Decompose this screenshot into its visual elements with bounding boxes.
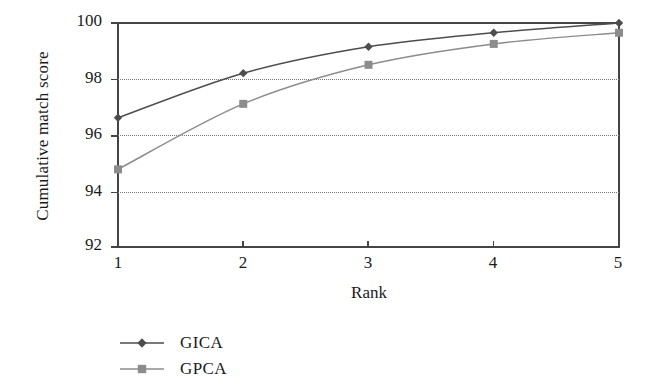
x-tick-label-4: 4 (489, 253, 498, 273)
y-tick-label-98: 98 (85, 68, 102, 88)
series-layer (117, 22, 620, 248)
y-tick-label-94: 94 (85, 181, 102, 201)
series-line-gpca (118, 33, 619, 170)
data-point-gpca-rank-2 (239, 100, 247, 108)
data-point-gica-rank-5 (615, 19, 623, 27)
data-point-gica-rank-2 (239, 69, 247, 77)
legend-label-gica: GICA (180, 333, 223, 353)
data-point-gica-rank-3 (364, 42, 372, 50)
x-tick-label-1: 1 (114, 253, 123, 273)
cmc-chart-figure: Cumulative match score Rank 100 98 96 94… (0, 0, 654, 390)
x-tick-label-2: 2 (239, 253, 248, 273)
y-tick-label-92: 92 (85, 235, 102, 255)
y-tick-label-100: 100 (77, 11, 103, 31)
series-line-gica (118, 23, 619, 118)
data-point-gpca-rank-4 (490, 40, 498, 48)
legend-label-gpca: GPCA (180, 359, 227, 379)
data-point-gica-rank-4 (490, 29, 498, 37)
legend-item-gpca: GPCA (118, 356, 227, 382)
x-tick-label-5: 5 (614, 253, 623, 273)
legend-marker-diamond-icon (118, 334, 166, 352)
data-point-gpca-rank-3 (365, 61, 373, 69)
data-point-gica-rank-1 (114, 114, 122, 122)
x-axis-title: Rank (117, 283, 621, 303)
legend-marker-square-icon (118, 360, 166, 378)
x-tick-label-3: 3 (364, 253, 373, 273)
y-tick-label-96: 96 (85, 124, 102, 144)
chart-legend: GICA GPCA (118, 330, 227, 382)
y-axis-title: Cumulative match score (33, 11, 53, 261)
data-point-gpca-rank-1 (114, 165, 122, 173)
legend-item-gica: GICA (118, 330, 227, 356)
data-point-gpca-rank-5 (615, 29, 623, 37)
plot-area: 100 98 96 94 92 1 2 3 4 5 (117, 22, 620, 248)
